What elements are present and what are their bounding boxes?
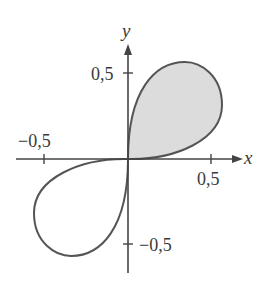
plot-canvas: −0,5 0,5 0,5 −0,5 x y xyxy=(0,0,268,287)
lobe-quadrant-3 xyxy=(34,159,128,256)
x-tick-label-pos-half: 0,5 xyxy=(197,169,220,189)
x-tick-label-neg-half: −0,5 xyxy=(18,131,51,151)
y-axis-arrowhead-icon xyxy=(124,44,132,55)
x-axis-label: x xyxy=(243,147,253,168)
y-axis-label: y xyxy=(120,20,131,41)
x-axis-arrowhead-icon xyxy=(232,155,243,163)
y-tick-label-neg-half: −0,5 xyxy=(139,235,172,255)
polar-curve-figure: −0,5 0,5 0,5 −0,5 x y xyxy=(0,0,268,287)
shaded-lobe-quadrant-1 xyxy=(128,62,222,159)
y-tick-label-pos-half: 0,5 xyxy=(91,64,114,84)
